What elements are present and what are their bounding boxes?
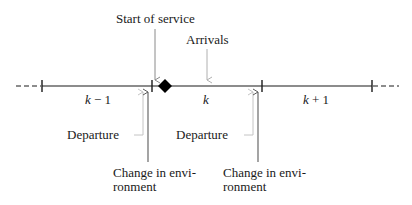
arrivals-label: Arrivals — [186, 33, 229, 47]
change-env-line1: Change in envi- — [223, 166, 306, 180]
change-env-line1: Change in envi- — [113, 166, 196, 180]
segment-label-k: k — [203, 93, 209, 107]
departure-label-right: Departure — [176, 128, 228, 142]
change-env-line2: ronment — [113, 180, 196, 194]
start-of-service-label: Start of service — [116, 12, 195, 26]
diamond-marker-icon — [158, 79, 172, 93]
segment-suffix: − 1 — [91, 92, 111, 107]
change-env-label-right: Change in envi- ronment — [223, 166, 306, 194]
change-env-label-left: Change in envi- ronment — [113, 166, 196, 194]
change-env-line2: ronment — [223, 180, 306, 194]
segment-suffix: + 1 — [309, 92, 329, 107]
departure-label-left: Departure — [67, 128, 119, 142]
departure-arrow-right — [244, 92, 253, 135]
segment-var: k — [203, 92, 209, 107]
segment-label-k-minus-1: k − 1 — [85, 93, 111, 107]
segment-label-k-plus-1: k + 1 — [303, 93, 329, 107]
departure-arrow-left — [134, 92, 143, 135]
